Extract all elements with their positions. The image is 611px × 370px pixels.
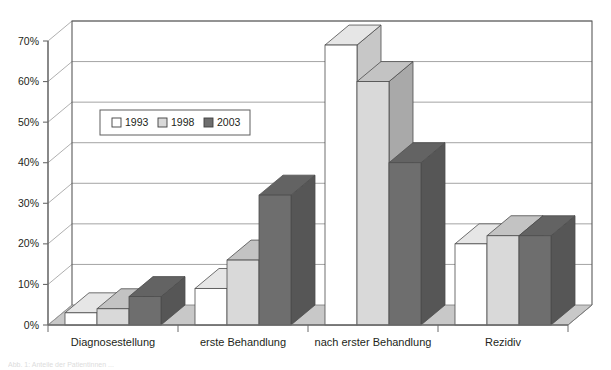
y-axis-tick-label: 0% [24, 319, 39, 331]
axis-depth-connector [48, 224, 72, 244]
axis-depth-connector [48, 62, 72, 82]
axis-depth-connector [48, 264, 72, 284]
axis-depth-connector [48, 183, 72, 203]
legend-swatch [204, 118, 213, 127]
x-axis-category-label: nach erster Behandlung [315, 336, 432, 348]
y-axis-tick-label: 60% [18, 75, 39, 87]
legend-swatch [112, 118, 121, 127]
y-axis-tick-label: 40% [18, 156, 39, 168]
grouped-bar-chart-3d: 0%10%20%30%40%50%60%70%Diagnosestellunge… [0, 0, 611, 370]
chart-container: 0%10%20%30%40%50%60%70%Diagnosestellunge… [0, 0, 611, 370]
legend-swatch [158, 118, 167, 127]
legend-label: 1993 [125, 116, 149, 128]
y-axis-tick-label: 30% [18, 197, 39, 209]
bar [259, 175, 315, 325]
y-axis-tick-label: 10% [18, 278, 39, 290]
x-axis-category-label: Diagnosestellung [71, 336, 155, 348]
legend: 199319982003 [100, 110, 250, 135]
axis-depth-connector [48, 102, 72, 122]
bar [519, 216, 575, 325]
figure-caption: Abb. 1: Anteile der Patientinnen ... [8, 360, 568, 369]
legend-label: 1998 [171, 116, 195, 128]
x-axis-category-label: Rezidiv [485, 336, 522, 348]
legend-label: 2003 [217, 116, 241, 128]
y-axis-tick-label: 50% [18, 116, 39, 128]
y-axis-tick-label: 70% [18, 35, 39, 47]
bar [389, 143, 445, 325]
y-axis-tick-label: 20% [18, 237, 39, 249]
axis-depth-connector [48, 143, 72, 163]
axis-depth-connector [48, 21, 72, 41]
x-axis-category-label: erste Behandlung [200, 336, 286, 348]
